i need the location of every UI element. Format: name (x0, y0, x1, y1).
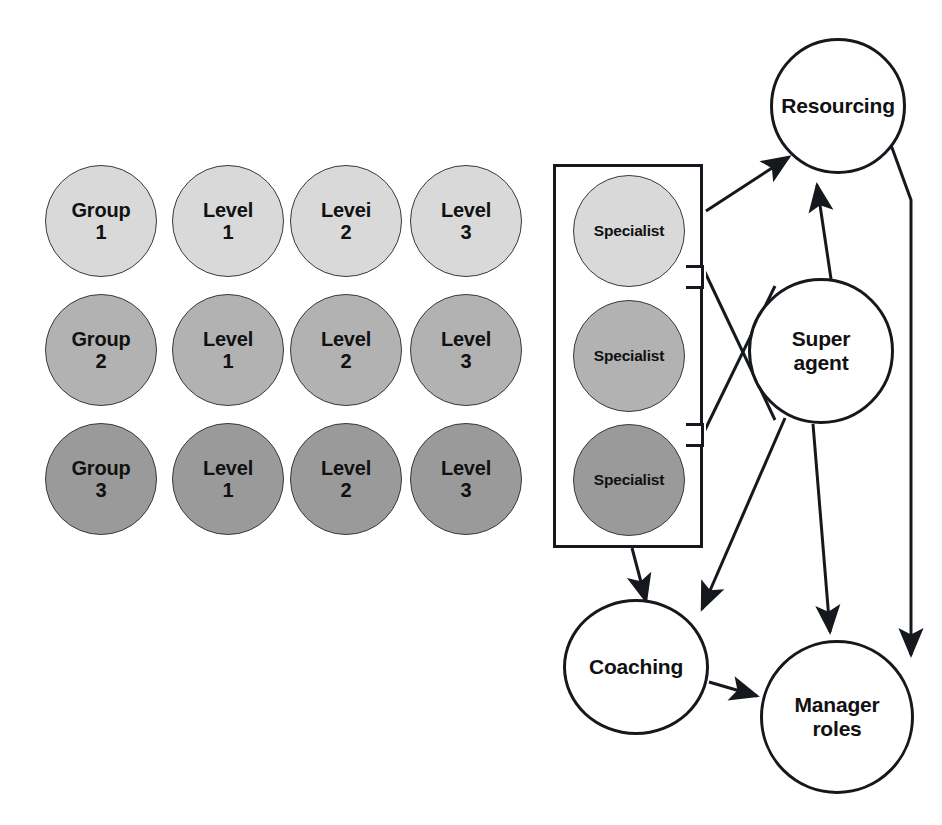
grid-label-line1: Level (203, 328, 253, 350)
specialist-circle-2[interactable]: Specialist (573, 300, 685, 412)
flow-node-label: Manager roles (795, 693, 880, 740)
edge-superagent-to-coaching (702, 418, 785, 609)
grid-circle-label: Group 3 (72, 457, 131, 502)
grid-label-line1: Group (72, 328, 131, 350)
grid-circle-r1c4[interactable]: Level 3 (410, 165, 522, 277)
edge-box-to-coaching (632, 548, 646, 601)
grid-circle-label: Level 3 (441, 457, 491, 502)
grid-circle-r1c1[interactable]: Group 1 (45, 165, 157, 277)
grid-label-line2: 2 (321, 221, 371, 243)
grid-label-line2: 1 (203, 479, 253, 501)
grid-circle-r2c3[interactable]: Level 2 (290, 294, 402, 406)
grid-circle-label: Level 3 (441, 328, 491, 373)
grid-label-line2: 3 (441, 350, 491, 372)
flow-node-label-line2: roles (795, 717, 880, 741)
grid-label-line1: Level (203, 199, 253, 221)
specialist-circle-1[interactable]: Specialist (573, 175, 685, 287)
flow-node-label-line2: agent (792, 351, 851, 375)
flow-node-label: Resourcing (781, 94, 895, 118)
flow-node-super-agent[interactable]: Super agent (748, 278, 894, 424)
grid-label-line2: 3 (441, 479, 491, 501)
grid-label-line2: 3 (72, 479, 131, 501)
grid-label-line2: 3 (441, 221, 491, 243)
grid-label-line1: Level (321, 457, 371, 479)
grid-label-line1: Level (441, 328, 491, 350)
grid-circle-r3c3[interactable]: Level 2 (290, 423, 402, 535)
grid-label-line1: Group (72, 457, 131, 479)
flow-node-label: Coaching (589, 655, 683, 679)
grid-circle-label: Level 2 (321, 328, 371, 373)
grid-circle-r2c4[interactable]: Level 3 (410, 294, 522, 406)
flow-node-label: Super agent (792, 327, 851, 374)
edge-superagent-to-manager-roles (813, 424, 830, 632)
flow-node-manager-roles[interactable]: Manager roles (760, 640, 914, 794)
grid-circle-r2c2[interactable]: Level 1 (172, 294, 284, 406)
grid-circle-label: Level 1 (203, 457, 253, 502)
grid-label-line2: 2 (321, 350, 371, 372)
grid-circle-label: Levei 2 (321, 199, 371, 244)
edge-resourcing-to-manager-roles (891, 145, 911, 655)
grid-label-line2: 2 (72, 350, 131, 372)
grid-label-line1: Group (72, 199, 131, 221)
flow-node-label-line1: Manager (795, 693, 880, 717)
grid-label-line2: 2 (321, 479, 371, 501)
flow-node-resourcing[interactable]: Resourcing (770, 38, 906, 174)
grid-circle-label: Level 1 (203, 328, 253, 373)
specialist-label: Specialist (594, 347, 664, 364)
grid-label-line1: Level (441, 457, 491, 479)
specialist-label: Specialist (594, 222, 664, 239)
grid-label-line1: Levei (321, 199, 371, 221)
grid-label-line1: Level (321, 328, 371, 350)
edge-coaching-to-manager-roles (709, 682, 757, 696)
edge-box-to-resourcing (706, 157, 789, 211)
grid-circle-label: Level 2 (321, 457, 371, 502)
grid-circle-r3c1[interactable]: Group 3 (45, 423, 157, 535)
grid-label-line2: 1 (203, 350, 253, 372)
grid-circle-r3c4[interactable]: Level 3 (410, 423, 522, 535)
grid-circle-label: Level 1 (203, 199, 253, 244)
grid-circle-r1c2[interactable]: Level 1 (172, 165, 284, 277)
grid-label-line2: 1 (72, 221, 131, 243)
grid-label-line1: Level (203, 457, 253, 479)
diagram-canvas: Group 1 Level 1 Levei 2 Level 3 Group 2 … (0, 0, 942, 825)
specialist-box-notch-bottom (686, 423, 704, 447)
specialist-label: Specialist (594, 471, 664, 488)
flow-node-label-line1: Super (792, 327, 851, 351)
grid-circle-r1c3[interactable]: Levei 2 (290, 165, 402, 277)
grid-circle-r3c2[interactable]: Level 1 (172, 423, 284, 535)
specialist-circle-3[interactable]: Specialist (573, 424, 685, 536)
specialist-box-notch-top (686, 265, 704, 289)
edge-superagent-to-resourcing (817, 185, 831, 279)
grid-circle-label: Group 1 (72, 199, 131, 244)
grid-label-line2: 1 (203, 221, 253, 243)
grid-circle-label: Level 3 (441, 199, 491, 244)
grid-label-line1: Level (441, 199, 491, 221)
grid-circle-r2c1[interactable]: Group 2 (45, 294, 157, 406)
flow-node-coaching[interactable]: Coaching (563, 599, 709, 735)
grid-circle-label: Group 2 (72, 328, 131, 373)
